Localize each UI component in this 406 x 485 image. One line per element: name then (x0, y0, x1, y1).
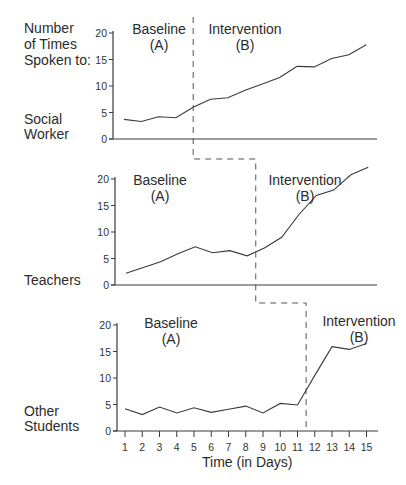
y-tick-label: 10 (95, 80, 107, 92)
x-tick-label: 8 (243, 441, 249, 453)
intervention-text: Intervention (260, 172, 350, 188)
y-tick-label: 20 (99, 319, 111, 331)
y-tick-label: 15 (97, 200, 109, 212)
x-tick-label: 15 (361, 441, 373, 453)
x-tick-label: 10 (274, 441, 286, 453)
panel3-intervention-label: Intervention (B) (314, 313, 404, 345)
x-tick-label: 7 (226, 441, 232, 453)
y-axis-title-line1: Number (24, 20, 74, 36)
y-tick-label: 5 (101, 107, 107, 119)
baseline-text: Baseline (125, 172, 195, 188)
y-tick-label: 15 (95, 54, 107, 66)
x-tick-label: 14 (343, 441, 355, 453)
x-tick-label: 5 (191, 441, 197, 453)
panel2-baseline-label: Baseline (A) (125, 172, 195, 204)
panel-label-social-worker-line1: Social (24, 111, 62, 127)
y-tick-label: 10 (99, 372, 111, 384)
panel-label-other-students-line1: Other (24, 403, 59, 419)
intervention-code: (B) (200, 37, 290, 53)
baseline-code: (A) (125, 188, 195, 204)
x-tick-label: 11 (292, 441, 303, 453)
panel3-baseline-label: Baseline (A) (136, 315, 206, 347)
y-tick-label: 5 (103, 253, 109, 265)
panel2-intervention-label: Intervention (B) (260, 172, 350, 204)
y-tick-label: 20 (97, 173, 109, 185)
baseline-code: (A) (136, 331, 206, 347)
y-tick-label: 0 (103, 279, 109, 291)
x-tick-label: 1 (122, 441, 128, 453)
y-tick-label: 0 (101, 133, 107, 145)
panel-label-teachers: Teachers (24, 272, 81, 288)
y-tick-label: 10 (97, 226, 109, 238)
intervention-text: Intervention (314, 313, 404, 329)
panel-label-other-students-line2: Students (24, 418, 79, 434)
baseline-text: Baseline (136, 315, 206, 331)
x-tick-label: 13 (326, 441, 338, 453)
intervention-code: (B) (314, 329, 404, 345)
panel1-baseline-label: Baseline (A) (124, 21, 194, 53)
x-tick-label: 2 (139, 441, 145, 453)
intervention-text: Intervention (200, 21, 290, 37)
y-axis-title-line3: Spoken to: (24, 52, 91, 68)
data-line-other-students (125, 344, 367, 415)
x-tick-label: 3 (157, 441, 163, 453)
y-tick-label: 20 (95, 27, 107, 39)
y-tick-label: 5 (105, 399, 111, 411)
y-tick-label: 15 (99, 346, 111, 358)
x-tick-label: 6 (208, 441, 214, 453)
phase-change-line (193, 17, 306, 430)
x-axis-title: Time (in Days) (202, 454, 293, 470)
baseline-text: Baseline (124, 21, 194, 37)
x-tick-label: 4 (174, 441, 180, 453)
intervention-code: (B) (260, 188, 350, 204)
x-tick-label: 12 (309, 441, 321, 453)
multiple-baseline-chart: 0510152005101520051015201234567891011121… (0, 0, 406, 485)
x-tick-label: 9 (260, 441, 266, 453)
data-line-social-worker (124, 45, 366, 122)
panel1-intervention-label: Intervention (B) (200, 21, 290, 53)
y-axis-title-line2: of Times (24, 36, 77, 52)
y-tick-label: 0 (105, 425, 111, 437)
baseline-code: (A) (124, 37, 194, 53)
panel-label-social-worker-line2: Worker (24, 126, 69, 142)
